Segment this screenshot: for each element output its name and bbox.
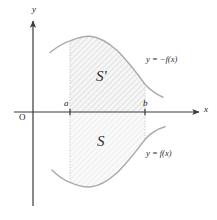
region-label-lower: S bbox=[97, 134, 105, 149]
region-upper-shading bbox=[70, 36, 145, 112]
curve-label-upper: y = −f(x) bbox=[146, 55, 177, 64]
y-axis-label: y bbox=[32, 5, 36, 14]
figure-canvas bbox=[0, 0, 217, 220]
region-lower-shading bbox=[70, 112, 145, 187]
x-axis-label: x bbox=[204, 105, 208, 114]
upper-limit-label: b bbox=[143, 99, 148, 108]
curve-label-lower: y = f(x) bbox=[146, 149, 172, 158]
region-label-upper: S' bbox=[96, 69, 107, 84]
origin-label: O bbox=[19, 113, 26, 122]
math-figure: y x O a b S' S y = −f(x) y = f(x) bbox=[0, 0, 217, 220]
lower-limit-label: a bbox=[64, 99, 69, 108]
